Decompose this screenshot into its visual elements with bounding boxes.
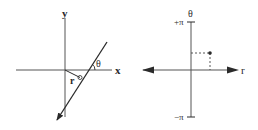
diagram-canvas: y x r θ θ +π −π r [0,0,258,130]
plus-pi-label: +π [174,17,184,27]
theta-label: θ [96,58,101,69]
y-axis-label: y [62,7,68,19]
r-label: r [70,75,75,86]
r-axis-label: r [241,64,245,76]
x-axis-label: x [115,64,121,76]
hough-transform-diagram: y x r θ θ +π −π r [0,0,258,130]
left-arrow-icon [142,67,154,74]
minus-pi-label: −π [174,112,184,122]
image-space-panel: y x r θ [16,7,121,120]
parameter-point [208,51,212,55]
right-arrow-icon [227,67,239,74]
theta-axis-label: θ [188,8,193,19]
parameter-space-panel: θ +π −π r [142,8,245,122]
theta-arc [92,64,95,70]
